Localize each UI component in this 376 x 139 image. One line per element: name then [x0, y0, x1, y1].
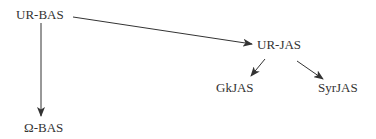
edge-urjas-to-gkjas [251, 59, 265, 76]
edge-urbas-to-urjas [73, 17, 252, 44]
stemma-diagram: UR-BAS Ω-BAS UR-JAS GkJAS SyrJAS [0, 0, 376, 139]
node-ur-bas: UR-BAS [16, 8, 64, 22]
node-syrjas: SyrJAS [318, 81, 358, 95]
node-ur-jas: UR-JAS [257, 38, 301, 52]
node-gkjas: GkJAS [216, 81, 254, 95]
node-omega-bas: Ω-BAS [24, 121, 63, 135]
edge-urjas-to-syrjas [297, 61, 323, 79]
